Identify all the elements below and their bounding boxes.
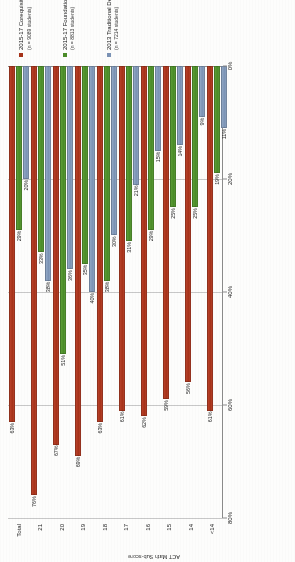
bar[interactable]: 40% (89, 66, 95, 292)
legend-item[interactable]: 2015-17 Foundations(n = 8813 students) (62, 5, 76, 57)
chart-legend: 2015-17 Corequisite(n = 9089 students)20… (18, 5, 119, 57)
bar[interactable]: 51% (60, 66, 66, 354)
legend-item[interactable]: 2015-17 Corequisite(n = 9089 students) (18, 5, 32, 57)
bar[interactable]: 21% (133, 66, 139, 185)
bar-value-label: 9% (199, 118, 205, 126)
bar[interactable]: 31% (126, 66, 132, 241)
bar[interactable]: 15% (155, 66, 161, 151)
bar[interactable]: 9% (199, 66, 205, 117)
bar-group: 63%29%20% (8, 66, 30, 518)
category-label: 21 (30, 520, 52, 562)
bar[interactable]: 69% (75, 66, 81, 456)
bar[interactable]: 29% (16, 66, 22, 230)
bar[interactable]: 19% (214, 66, 220, 173)
bar-row: 51% (60, 66, 66, 518)
bar[interactable]: 25% (170, 66, 176, 207)
bar-value-label: 59% (163, 400, 169, 411)
bar-value-label: 20% (23, 180, 29, 191)
bar[interactable]: 61% (119, 66, 125, 411)
bar-row: 15% (155, 66, 161, 518)
bar[interactable]: 59% (163, 66, 169, 399)
bar[interactable]: 38% (45, 66, 51, 281)
bar[interactable]: 62% (141, 66, 147, 416)
bar[interactable]: 76% (31, 66, 37, 495)
bar-value-label: 25% (192, 208, 198, 219)
bar-row: 61% (207, 66, 213, 518)
bar-value-label: 38% (104, 282, 110, 293)
bar-value-label: 21% (133, 186, 139, 197)
bar[interactable]: 38% (104, 66, 110, 281)
bar-group: 61%31%21% (118, 66, 140, 518)
bar-row: 19% (214, 66, 220, 518)
legend-item[interactable]: 2013 Traditional DevEd(n = 7214 students… (106, 5, 120, 57)
bar-group: 67%51%36% (52, 66, 74, 518)
bar-row: 30% (111, 66, 117, 518)
bar-value-label: 69% (75, 457, 81, 468)
bar-value-label: 40% (89, 293, 95, 304)
bar[interactable]: 63% (97, 66, 103, 422)
category-label: 16 (137, 520, 159, 562)
bar-group: 69%35%40% (74, 66, 96, 518)
legend-series-count: (n = 8813 students) (69, 0, 75, 50)
bar[interactable]: 61% (207, 66, 213, 411)
bar-value-label: 38% (45, 282, 51, 293)
bar-row: 59% (163, 66, 169, 518)
legend-swatch-icon (107, 53, 111, 57)
category-label: 15 (159, 520, 181, 562)
bar-row: 33% (38, 66, 44, 518)
bar-row: 67% (53, 66, 59, 518)
bar-value-label: 33% (38, 253, 44, 264)
tick-label: 20% (227, 173, 233, 185)
bar-value-label: 61% (119, 412, 125, 423)
category-label: <14 (202, 520, 224, 562)
bar-group: 76%33%38% (30, 66, 52, 518)
bar-row: 25% (170, 66, 176, 518)
bar[interactable]: 29% (148, 66, 154, 230)
bar-value-label: 56% (185, 383, 191, 394)
bar-row: 76% (31, 66, 37, 518)
bar[interactable]: 20% (23, 66, 29, 179)
rotated-chart-canvas: Total2120191817161514<14 ACT Math Sub-sc… (0, 0, 295, 562)
bar-row: 40% (89, 66, 95, 518)
bar-row: 29% (148, 66, 154, 518)
bar-row: 38% (45, 66, 51, 518)
category-label: 20 (51, 520, 73, 562)
category-label: Total (8, 520, 30, 562)
bar[interactable]: 36% (67, 66, 73, 269)
bar[interactable]: 25% (192, 66, 198, 207)
legend-series-name: 2015-17 Corequisite (18, 0, 26, 50)
bar-row: 20% (23, 66, 29, 518)
bar-row: 62% (141, 66, 147, 518)
bar-group: 56%25%9% (184, 66, 206, 518)
bar-row: 56% (185, 66, 191, 518)
bar-value-label: 15% (155, 152, 161, 163)
bar-row: 31% (126, 66, 132, 518)
tick-label: 60% (227, 399, 233, 411)
category-label: 19 (73, 520, 95, 562)
bar[interactable]: 63% (9, 66, 15, 422)
bar[interactable]: 35% (82, 66, 88, 264)
bar-row: 21% (133, 66, 139, 518)
legend-swatch-icon (63, 53, 67, 57)
bar-value-label: 30% (111, 237, 117, 248)
plot-area: 63%29%20%76%33%38%67%51%36%69%35%40%63%3… (8, 66, 223, 518)
category-label: 17 (116, 520, 138, 562)
legend-series-name: 2015-17 Foundations (62, 0, 70, 50)
bar-row: 35% (82, 66, 88, 518)
bar-value-label: 61% (207, 412, 213, 423)
bar-row: 63% (97, 66, 103, 518)
value-axis-ticks: 80%60%40%20%0% (223, 66, 237, 518)
bar-row: 25% (192, 66, 198, 518)
bar-value-label: 62% (141, 417, 147, 428)
bar[interactable]: 33% (38, 66, 44, 252)
bar[interactable]: 56% (185, 66, 191, 382)
bar[interactable]: 67% (53, 66, 59, 445)
bar[interactable]: 30% (111, 66, 117, 236)
bar-value-label: 29% (16, 231, 22, 242)
gridline (8, 518, 223, 519)
bar-group: 59%25%14% (162, 66, 184, 518)
bar-groups: 63%29%20%76%33%38%67%51%36%69%35%40%63%3… (8, 66, 223, 518)
bar[interactable]: 14% (177, 66, 183, 145)
legend-series-count: (n = 7214 students) (113, 0, 119, 50)
legend-series-name: 2013 Traditional DevEd (106, 0, 114, 50)
